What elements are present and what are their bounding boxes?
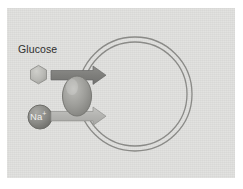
glucose-hexagon-icon — [31, 65, 47, 83]
sodium-label-text: Na — [30, 111, 42, 122]
membrane-inner-line — [83, 42, 187, 146]
membrane-outer-line — [78, 37, 192, 151]
sodium-charge-superscript: + — [42, 110, 46, 117]
sodium-label: Na+ — [30, 112, 47, 122]
cell-transport-diagram — [7, 8, 235, 178]
cotransporter-protein-icon — [63, 76, 92, 116]
illustration-panel: Glucose Na+ — [7, 8, 235, 178]
glucose-label: Glucose — [18, 44, 57, 55]
cotransporter-protein-highlight — [66, 79, 78, 95]
figure-root: Glucose Na+ — [0, 0, 243, 189]
